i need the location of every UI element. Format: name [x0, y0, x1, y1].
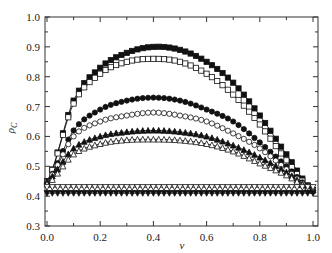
- circle-marker: [225, 116, 230, 121]
- x-tick-label: 0.0: [40, 231, 54, 243]
- y-tick-label: 1.0: [26, 11, 40, 23]
- x-tick-label: 0.8: [253, 231, 267, 243]
- square-marker: [215, 78, 220, 83]
- triangle-up-marker: [76, 148, 82, 154]
- square-marker: [236, 97, 241, 102]
- circle-marker: [156, 95, 161, 100]
- circle-marker: [161, 95, 166, 100]
- circle-marker: [268, 154, 273, 159]
- triangle-up-marker: [71, 151, 77, 157]
- circle-marker: [252, 135, 257, 140]
- square-marker: [199, 56, 204, 61]
- triangle-up-marker: [246, 149, 252, 155]
- square-marker: [124, 59, 129, 64]
- square-marker: [247, 109, 252, 114]
- circle-marker: [145, 95, 150, 100]
- triangle-up-marker: [236, 144, 242, 150]
- square-marker: [119, 61, 124, 66]
- square-marker: [241, 92, 246, 97]
- circle-marker: [225, 128, 230, 133]
- circle-marker: [199, 105, 204, 110]
- square-marker: [177, 47, 182, 52]
- square-marker: [225, 87, 230, 92]
- triangle-up-marker: [246, 155, 252, 161]
- triangle-up-marker: [252, 158, 258, 164]
- circle-marker: [167, 111, 172, 116]
- circle-marker: [92, 121, 97, 126]
- square-marker: [108, 65, 113, 70]
- square-marker: [193, 65, 198, 70]
- circle-marker: [98, 119, 103, 124]
- triangle-up-marker: [220, 138, 226, 144]
- circle-marker: [71, 128, 76, 133]
- square-marker: [145, 56, 150, 61]
- circle-marker: [124, 98, 129, 103]
- circle-marker: [247, 139, 252, 144]
- square-marker: [225, 75, 230, 80]
- square-marker: [98, 65, 103, 70]
- circle-marker: [66, 142, 71, 147]
- circle-marker: [156, 110, 161, 115]
- square-marker: [257, 122, 262, 127]
- square-marker: [247, 99, 252, 104]
- square-marker: [273, 144, 278, 149]
- circle-marker: [204, 107, 209, 112]
- circle-marker: [167, 96, 172, 101]
- triangle-up-marker: [252, 152, 258, 158]
- circle-marker: [209, 109, 214, 114]
- square-marker: [204, 59, 209, 64]
- square-marker: [215, 66, 220, 71]
- square-marker: [241, 103, 246, 108]
- square-marker: [92, 70, 97, 75]
- square-marker: [161, 44, 166, 49]
- circle-marker: [220, 126, 225, 131]
- circle-marker: [263, 144, 268, 149]
- square-marker: [172, 58, 177, 63]
- circle-marker: [108, 116, 113, 121]
- circle-marker: [82, 125, 87, 130]
- square-marker: [161, 57, 166, 62]
- circle-marker: [204, 119, 209, 124]
- circle-marker: [247, 131, 252, 136]
- square-marker: [130, 58, 135, 63]
- circle-marker: [71, 134, 76, 139]
- circle-marker: [263, 150, 268, 155]
- square-marker: [55, 151, 60, 156]
- square-marker: [140, 57, 145, 62]
- triangle-up-marker: [81, 139, 87, 145]
- square-marker: [209, 63, 214, 68]
- circle-marker: [87, 113, 92, 118]
- square-marker: [156, 56, 161, 61]
- circle-marker: [172, 112, 177, 117]
- x-axis-label: ν: [180, 239, 185, 251]
- square-marker: [92, 75, 97, 80]
- square-marker: [135, 47, 140, 52]
- circle-marker: [193, 116, 198, 121]
- square-marker: [76, 92, 81, 97]
- series-filled-triangle-down: [44, 191, 316, 197]
- circle-marker: [135, 96, 140, 101]
- circle-marker: [188, 101, 193, 106]
- circle-marker: [177, 113, 182, 118]
- triangle-up-marker: [257, 154, 263, 160]
- square-marker: [236, 86, 241, 91]
- square-marker: [177, 59, 182, 64]
- circle-marker: [124, 113, 129, 118]
- circle-marker: [76, 122, 81, 127]
- square-marker: [167, 57, 172, 62]
- square-marker: [71, 101, 76, 106]
- circle-marker: [209, 121, 214, 126]
- circle-marker: [241, 126, 246, 131]
- circle-marker: [119, 99, 124, 104]
- triangle-up-marker: [241, 153, 247, 159]
- square-marker: [145, 45, 150, 50]
- y-tick-label: 0.3: [26, 220, 40, 232]
- triangle-up-marker: [230, 142, 236, 148]
- square-marker: [124, 50, 129, 55]
- circle-marker: [241, 136, 246, 141]
- square-marker: [188, 51, 193, 56]
- chart: 0.00.20.40.60.81.00.30.40.50.60.70.80.91…: [0, 0, 332, 253]
- triangle-up-marker: [241, 147, 247, 153]
- triangle-up-marker: [262, 163, 268, 169]
- square-marker: [172, 46, 177, 51]
